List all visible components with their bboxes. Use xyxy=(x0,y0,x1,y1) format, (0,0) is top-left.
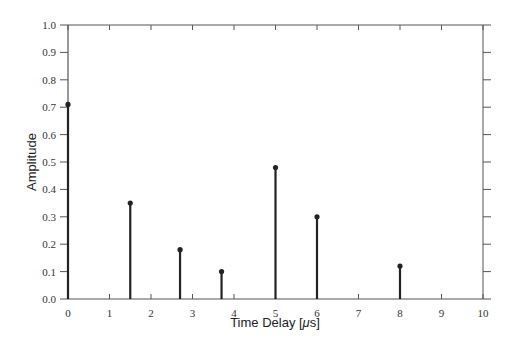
y-tick-label: 0.0 xyxy=(42,293,56,305)
x-axis-title: Time Delay [μs] xyxy=(230,315,320,330)
y-tick-label: 0.7 xyxy=(42,101,56,113)
stem-marker xyxy=(128,201,133,206)
y-tick-label: 0.3 xyxy=(42,211,56,223)
y-tick-label: 0.9 xyxy=(42,46,56,58)
y-tick-label: 0.2 xyxy=(42,238,56,250)
x-tick-label: 1 xyxy=(107,307,113,319)
x-axis-title-prefix: Time Delay [ xyxy=(230,315,303,330)
x-tick-label: 10 xyxy=(478,307,490,319)
x-tick-label: 0 xyxy=(65,307,71,319)
stem-marker xyxy=(273,165,278,170)
x-tick-label: 3 xyxy=(190,307,196,319)
x-axis-title-mu: μ xyxy=(302,315,310,330)
x-tick-label: 2 xyxy=(148,307,154,319)
y-tick-label: 0.8 xyxy=(42,74,56,86)
stem-series xyxy=(65,102,402,299)
stem-marker xyxy=(177,247,182,252)
stem-marker xyxy=(65,102,70,107)
stem-marker xyxy=(219,269,224,274)
x-axis-title-suffix: s] xyxy=(310,315,320,330)
x-tick-label: 9 xyxy=(439,307,445,319)
plot-axes: 0123456789100.00.10.20.30.40.50.60.70.80… xyxy=(42,19,491,319)
y-tick-label: 1.0 xyxy=(42,19,56,31)
stem-marker xyxy=(397,264,402,269)
stem-chart: 0123456789100.00.10.20.30.40.50.60.70.80… xyxy=(0,0,515,348)
y-tick-label: 0.4 xyxy=(42,183,56,195)
y-tick-label: 0.1 xyxy=(42,266,56,278)
y-tick-label: 0.5 xyxy=(42,156,56,168)
x-tick-label: 7 xyxy=(356,307,362,319)
y-axis-title: Amplitude xyxy=(24,133,39,191)
stem-marker xyxy=(314,214,319,219)
x-tick-label: 8 xyxy=(397,307,403,319)
y-tick-label: 0.6 xyxy=(42,129,56,141)
